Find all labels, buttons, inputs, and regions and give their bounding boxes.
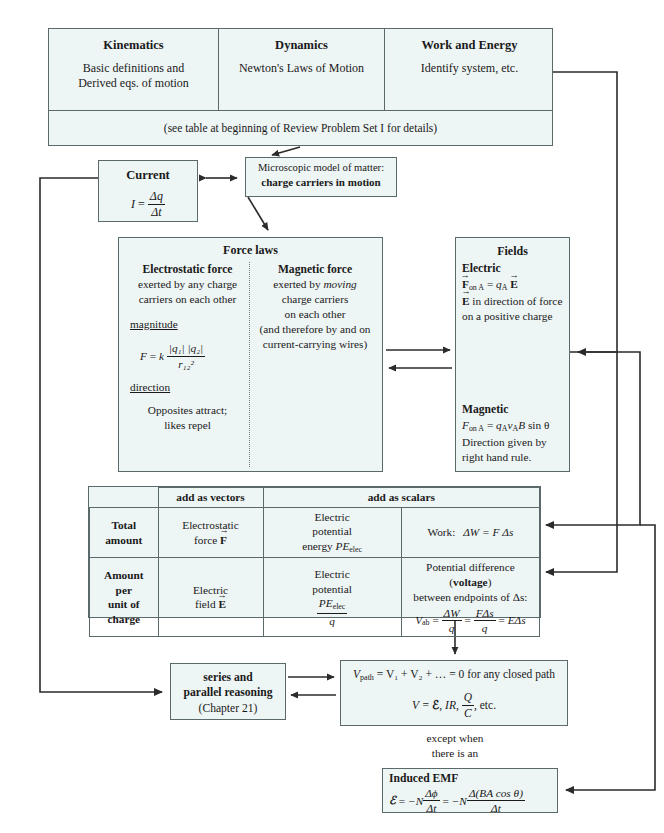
current-box: Current I = ΔqΔt [98,160,198,222]
direction-label: direction [130,380,245,395]
magnetic-b-symbol: B [518,419,525,431]
cell-potential-line-2: potential [267,582,398,597]
row-label-total-line-1: Total [93,518,155,533]
overview-summary-box: Kinematics Basic definitions and Derived… [48,28,553,146]
series-line-1: series and [171,670,285,685]
row-label-amount-line-3: unit of [93,597,155,612]
coulomb-constant: k [159,349,164,364]
electric-charge-subscript: A [502,283,508,292]
row-label-amount-line-2: per [93,583,155,598]
induced-emf-title: Induced EMF [383,769,557,785]
electric-field-vector: E [510,277,518,292]
bacos-denominator: Δt [467,801,525,814]
work-label: Work: [427,526,455,538]
microscopic-line-2: charge carriers in motion [246,175,396,189]
emf-turns-2: −N [452,795,467,807]
vpath-lhs-subscript: path [360,673,374,682]
ir-term: IR [445,699,456,711]
pe-subscript: elec [349,545,362,554]
kinematics-title: Kinematics [49,37,218,54]
except-line-2: there is an [390,746,520,761]
kinematics-line-2: Derived eqs. of motion [49,76,218,92]
coulomb-lhs: F [140,349,147,364]
table-header-add-as-vectors: add as vectors [158,488,263,508]
series-chapter-reference: (Chapter 21) [171,701,285,716]
induced-emf-equation: ℰ = −NΔϕΔt = −NΔ(BA cos θ)Δt [383,787,557,814]
cell-work: Work: ΔW = F Δs [401,507,539,558]
row-label-amount-line-4: charge [93,612,155,627]
electric-field-line-3: on a positive charge [456,309,569,324]
table-header-row: add as vectors add as scalars [90,488,540,508]
coulomb-law-formula: F = k |q₁| |q₂|r₁₂² [130,342,245,369]
current-eq-numerator: Δq [148,190,165,205]
electric-eq-equals: = [487,278,493,290]
cell-potential-difference: Potential difference (voltage) between e… [401,558,539,636]
magnetic-force-column: Magnetic force exerted by moving charge … [249,262,380,467]
direction-line-2: likes repel [130,418,245,433]
magnetic-line-3: on each other [250,307,380,322]
cell-electrostatic-force-line-2: force [194,534,220,546]
cell-efield-line-1: Electric [162,583,260,598]
electric-force-subscript: on A [469,283,484,292]
electrostatic-force-column: Electrostatic force exerted by any charg… [123,262,245,467]
current-eq-denominator: Δt [148,205,165,219]
potential-pe-subscript: elec [333,603,346,612]
flux-denominator: Δt [423,801,439,814]
emf-equals-2: = [443,795,449,807]
quantities-table: add as vectors add as scalars Total amou… [88,486,541,618]
vpath-lhs: V [353,668,360,680]
electric-field-equation: Fon A = qA E [456,277,569,294]
cell-electric-potential-energy: Electric potential energy PEelec [263,507,401,558]
row-label-total-amount: Total amount [90,507,159,558]
magnetic-line-1-pre: exerted by [273,278,323,290]
except-when-note: except when there is an [390,731,520,760]
force-laws-title: Force laws [119,243,382,258]
table-row: Amount per unit of charge Electric field… [90,558,540,636]
pd-tail: EΔs [508,613,526,628]
pd-line-2: between endpoints of Δs: [405,590,536,605]
cell-pe-line-3: energy [302,540,335,552]
magnetic-force-symbol: F [462,419,469,431]
force-laws-box: Force laws Electrostatic force exerted b… [118,237,383,472]
pd-numerator-2: FΔs [474,607,496,621]
force-vector-symbol: F [220,533,227,548]
cell-potential-line-1: Electric [267,567,398,582]
cell-electrostatic-force: Electrostatic force F [158,507,263,558]
pd-lhs-subscript: ab [422,618,429,627]
voltage-eq-tail: etc. [480,699,496,711]
magnetic-field-line-2: Direction given by [456,435,569,450]
row-label-amount-per-unit-charge: Amount per unit of charge [90,558,159,636]
current-eq-lhs: I [131,197,135,212]
series-parallel-box: series and parallel reasoning (Chapter 2… [170,663,286,720]
bacos-numerator: Δ(BA cos θ) [467,787,525,801]
work-energy-title: Work and Energy [385,37,554,54]
coulomb-denominator: r₁₂² [167,357,205,370]
cell-electric-field: Electric field E [158,558,263,636]
dynamics-title: Dynamics [219,37,384,54]
voltage-eq-lhs: V = [412,699,429,711]
cell-electric-potential: Electric potential PEelecq [263,558,401,636]
except-line-1: except when [390,731,520,746]
electrostatic-line-2: carriers on each other [130,292,245,307]
header-column-work-and-energy: Work and Energy Identify system, etc. [384,29,554,111]
pd-denominator-2: q [474,621,496,634]
cell-electrostatic-force-line-1: Electrostatic [162,518,260,533]
efield-vector-symbol: E [218,597,226,612]
pd-line-1-post: ) [488,576,492,588]
vpath-equation: Vpath = V₁ + V₂ + … = 0 for any closed p… [341,668,567,682]
electrostatic-line-1: exerted by any charge [130,277,245,292]
cell-efield-line-2: field [195,598,219,610]
magnetic-line-4: (and therefore by and on [250,322,380,337]
header-footnote: (see table at beginning of Review Proble… [49,110,552,145]
microscopic-line-1: Microscopic model of matter: [246,161,396,175]
magnetic-force-title: Magnetic force [250,262,380,277]
pd-denominator-1: q [442,621,462,634]
flux-numerator: Δϕ [423,787,439,801]
emf-turns-1: −N [408,795,423,807]
kinematics-line-1: Basic definitions and [49,61,218,77]
emf-equals-1: = [399,795,405,807]
magnetic-line-2: charge carriers [250,292,380,307]
pd-voltage-word: voltage [453,576,488,588]
induced-emf-box: Induced EMF ℰ = −NΔϕΔt = −NΔ(BA cos θ)Δt [382,768,558,813]
magnetic-force-subscript: on A [469,424,484,433]
